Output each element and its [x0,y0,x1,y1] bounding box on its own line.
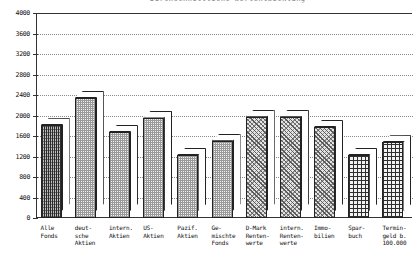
bar-column [143,111,172,218]
bar-front-face [382,142,403,218]
x-tick-label: Spar- buch [348,224,382,239]
x-tick-label: intern. Aktien [109,224,143,239]
bar-series [36,13,412,218]
x-tick-label: Ge- mischte Fonds [212,224,246,247]
bar-column [348,148,377,218]
bar-side-face [301,110,309,211]
bar-side-face [198,148,206,211]
y-tick-label: 0 [26,215,30,222]
bar-front-face [246,117,267,218]
y-tick-label: 1200 [16,153,30,160]
bar-side-face [233,134,241,211]
y-tick-label: 3200 [16,51,30,58]
x-axis-tick-labels: Alle Fondsdeut- sche Aktienintern. Aktie… [36,224,412,263]
y-tick-label: 800 [19,174,30,181]
bar-side-face [164,111,172,211]
x-tick-label: Alle Fonds [41,224,75,239]
bar-front-face [109,132,130,218]
x-tick-label: deut- sche Aktien [75,224,109,247]
x-tick-label: intern. Renten- werte [280,224,314,247]
bar-column [212,134,241,218]
bar-column [382,135,411,218]
chart-title-clipped: Durchschnittliche Wertentwicklung [0,0,418,8]
bar-side-face [403,135,411,211]
y-tick-mark [33,218,38,219]
y-tick-label: 3600 [16,30,30,37]
x-tick-label: Pazif. Aktien [177,224,211,239]
x-tick-label: Immo- bilien [314,224,348,239]
bar-front-face [177,155,198,218]
y-tick-label: 1600 [16,133,30,140]
bar-column [246,110,275,218]
bar-side-face [130,125,138,211]
x-tick-label: US- Aktien [143,224,177,239]
bar-front-face [143,118,164,218]
bar-side-face [96,91,104,211]
bar-front-face [212,141,233,218]
bar-column [177,148,206,218]
bar-side-face [369,148,377,211]
x-tick-label: D-Mark Renten- werte [246,224,280,247]
bar-column [75,91,104,218]
y-tick-label: 2400 [16,92,30,99]
bar-side-face [335,120,343,211]
bar-front-face [75,98,96,218]
bar-front-face [280,117,301,218]
bar-column [280,110,309,218]
bar-side-face [267,110,275,211]
y-tick-label: 400 [19,194,30,201]
bar-column [314,120,343,218]
y-axis-tick-labels: 400036003200280024002000160012008004000 [0,13,34,218]
x-tick-label: Termin- geld b. 100.000 [382,224,416,247]
y-tick-label: 2800 [16,71,30,78]
bar-side-face [62,118,70,211]
bar-chart: Durchschnittliche Wertentwicklung 400036… [0,0,418,263]
chart-title-text: Durchschnittliche Wertentwicklung [150,0,306,3]
bar-front-face [348,155,369,218]
bar-column [109,125,138,218]
bar-front-face [41,125,62,218]
bar-front-face [314,127,335,218]
bar-column [41,118,70,218]
y-tick-label: 2000 [16,112,30,119]
y-tick-label: 4000 [16,10,30,17]
